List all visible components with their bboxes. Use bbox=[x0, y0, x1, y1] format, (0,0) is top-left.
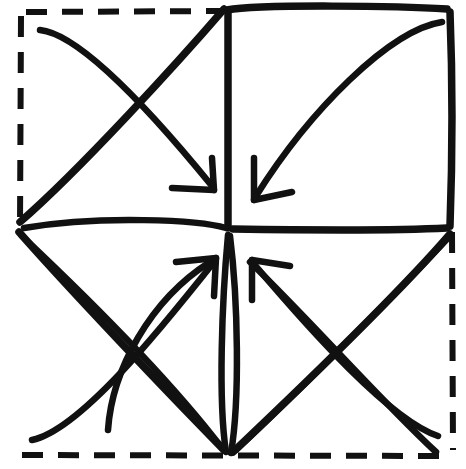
arrow-top-right-shaft bbox=[256, 22, 442, 196]
square-right-edge bbox=[450, 12, 452, 226]
square-top-edge bbox=[227, 6, 447, 10]
square-bottom-edge bbox=[233, 228, 447, 230]
lens-left-edge bbox=[222, 235, 228, 452]
dashed-left-edge bbox=[20, 16, 21, 228]
arrow-bottom-left-head-left bbox=[176, 258, 216, 262]
arrow-top-left-head-left bbox=[172, 188, 214, 190]
diagram-canvas bbox=[0, 0, 466, 469]
horizontal-fold-to-center bbox=[24, 220, 226, 228]
arrow-bottom-left-head-right bbox=[214, 258, 216, 296]
origami-diagram bbox=[0, 0, 466, 469]
arrow-top-left-head-right bbox=[212, 158, 214, 190]
arrow-top-right bbox=[254, 22, 442, 200]
dashed-bottom-edge bbox=[22, 455, 452, 456]
dashed-top-edge bbox=[26, 11, 224, 12]
bottom-right-diagonal-a bbox=[236, 238, 448, 450]
dashed-right-edge bbox=[452, 232, 453, 450]
lens-right-edge bbox=[230, 236, 237, 453]
